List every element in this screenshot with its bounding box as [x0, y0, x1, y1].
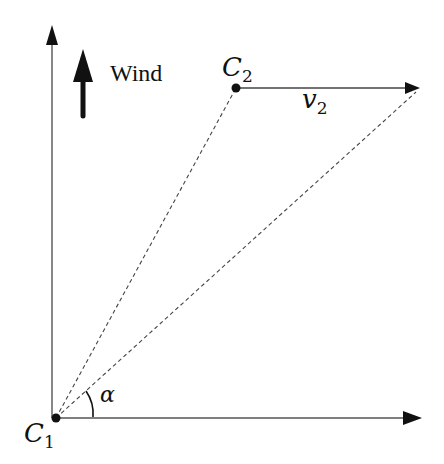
x-axis	[56, 411, 422, 425]
velocity-vector-v2	[236, 82, 420, 94]
c1-symbol: C	[24, 418, 44, 448]
v2-subscript: 2	[317, 98, 328, 118]
wind-label: Wind	[110, 60, 162, 87]
wind-vector-diagram: Wind C2 v2 C1 α	[0, 0, 444, 464]
v2-symbol: v	[302, 84, 317, 114]
c1-label: C1	[24, 418, 55, 452]
c2-label: C2	[222, 52, 253, 86]
y-axis	[46, 25, 58, 418]
wind-arrow-icon	[73, 49, 93, 116]
dashed-line-c1-v2-tip	[56, 92, 416, 418]
dashed-line-c1-c2	[56, 88, 236, 418]
alpha-label: α	[100, 382, 115, 407]
c2-symbol: C	[222, 52, 242, 82]
c1-subscript: 1	[44, 432, 55, 452]
angle-arc	[86, 391, 93, 417]
c2-subscript: 2	[242, 66, 253, 86]
v2-label: v2	[302, 84, 328, 118]
